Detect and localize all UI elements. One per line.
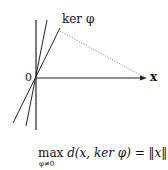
- arrow-head-icon: [140, 76, 147, 81]
- kernel-label: ker φ: [62, 12, 94, 26]
- formula-expression: d(x, ker φ) = ‖x‖: [67, 146, 167, 160]
- origin-label: 0: [25, 71, 32, 84]
- formula-subscript: φ≠0: [39, 160, 54, 168]
- formula-operator: max: [38, 146, 63, 160]
- distance-dotted-line: [60, 31, 142, 76]
- formula: max d(x, ker φ) = ‖x‖: [38, 146, 167, 160]
- vector-label: x: [150, 70, 157, 84]
